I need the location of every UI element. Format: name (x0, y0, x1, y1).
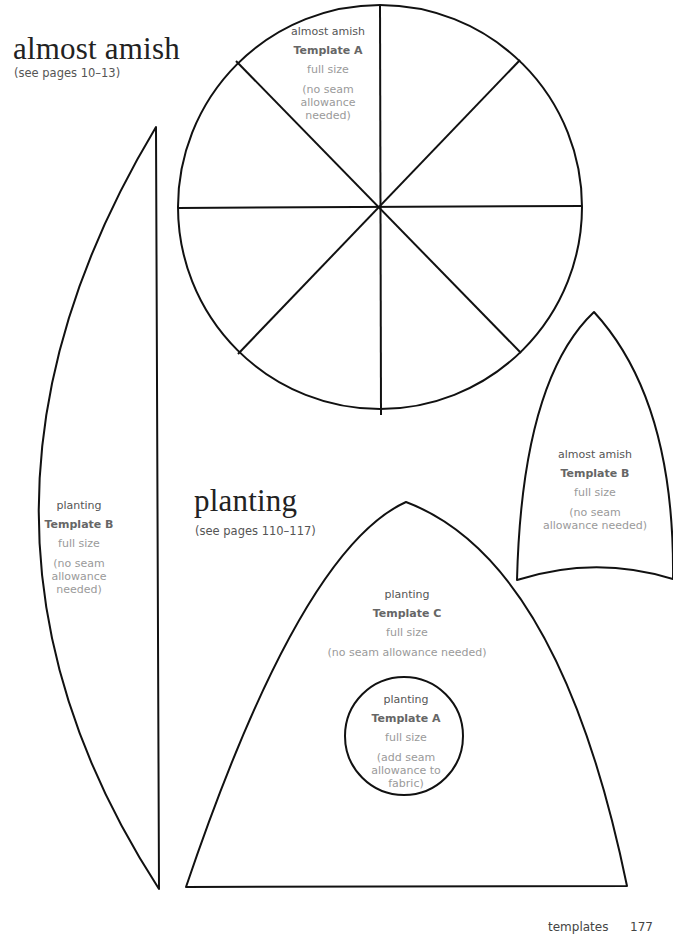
template-name: Template A (371, 713, 441, 724)
planting-template-b-label: planting Template B full size (no seam a… (45, 500, 114, 596)
almost-amish-pages-ref: (see pages 10–13) (14, 66, 120, 80)
planting-template-a-label: planting Template A full size (add seam … (371, 694, 441, 790)
template-project: planting (327, 589, 486, 600)
almost-amish-template-b-label: almost amish Template B full size (no se… (543, 449, 647, 532)
template-project: planting (371, 694, 441, 705)
template-note: (no seam allowance needed) (291, 83, 365, 122)
template-project: almost amish (291, 26, 365, 37)
template-size: full size (327, 627, 486, 638)
planting-pages-ref: (see pages 110–117) (195, 524, 316, 538)
template-project: planting (45, 500, 114, 511)
template-note: (no seam allowance needed) (543, 506, 647, 532)
footer-section: templates (548, 920, 608, 934)
almost-amish-template-a-shape (178, 5, 582, 415)
template-name: Template A (291, 45, 365, 56)
template-note: (no seam allowance needed) (327, 646, 486, 659)
template-size: full size (371, 732, 441, 743)
template-name: Template B (543, 468, 647, 479)
planting-template-c-label: planting Template C full size (no seam a… (327, 589, 486, 659)
template-note: (add seam allowance to fabric) (371, 751, 441, 790)
page-number: 177 (630, 920, 653, 934)
template-name: Template B (45, 519, 114, 530)
template-project: almost amish (543, 449, 647, 460)
almost-amish-heading: almost amish (13, 33, 180, 64)
planting-heading: planting (194, 485, 297, 516)
template-size: full size (45, 538, 114, 549)
page-footer: templates 177 (548, 920, 653, 934)
almost-amish-template-a-label: almost amish Template A full size (no se… (291, 26, 365, 122)
almost-amish-template-b-shape (517, 312, 673, 580)
template-size: full size (543, 487, 647, 498)
template-size: full size (291, 64, 365, 75)
template-note: (no seam allowance needed) (45, 557, 114, 596)
template-name: Template C (327, 608, 486, 619)
